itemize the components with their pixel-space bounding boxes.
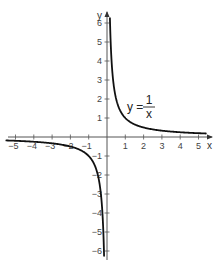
equation-denominator: x <box>146 107 152 121</box>
y-tick-label: 1 <box>97 113 102 123</box>
equation-lhs: y = <box>127 100 143 114</box>
y-tick-label: −1 <box>92 151 102 161</box>
x-axis-label: x <box>207 140 212 151</box>
y-tick-label: 4 <box>97 56 102 66</box>
x-tick-label: −5 <box>8 141 18 151</box>
y-tick-label: 5 <box>97 37 102 47</box>
hyperbola-branch <box>6 140 104 255</box>
axes <box>8 12 212 260</box>
chart-plot: −5−4−3−2−112345 654321−1−2−3−4−5−6 x y y… <box>0 0 224 262</box>
x-tick-label: −1 <box>82 141 92 151</box>
y-tick-label: 3 <box>97 75 102 85</box>
y-tick-label: −4 <box>92 208 102 218</box>
y-tick-label: 2 <box>97 94 102 104</box>
y-tick-label: −6 <box>92 246 102 256</box>
x-tick-label: 3 <box>159 141 164 151</box>
x-tick-label: 2 <box>141 141 146 151</box>
equation-numerator: 1 <box>146 93 153 107</box>
y-axis-label: y <box>97 10 102 21</box>
x-tick-label: 5 <box>196 141 201 151</box>
y-tick-label: −5 <box>92 227 102 237</box>
hyperbola-branch <box>110 18 206 133</box>
equation-annotation: y = 1 x <box>127 93 155 121</box>
x-tick-label: 4 <box>178 141 183 151</box>
x-tick-label: 1 <box>123 141 128 151</box>
